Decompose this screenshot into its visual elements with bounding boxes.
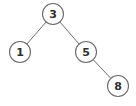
node-label: 1: [16, 46, 24, 59]
tree-node-1: 1: [10, 42, 31, 63]
binary-tree-diagram: 3 1 5 8: [0, 0, 136, 106]
tree-node-8: 8: [108, 76, 129, 97]
edge-3-to-1: [27, 22, 46, 44]
nodes: 3 1 5 8: [10, 4, 129, 97]
tree-node-3: 3: [43, 4, 64, 25]
node-label: 3: [49, 8, 57, 21]
edges: [27, 22, 111, 78]
node-label: 8: [114, 80, 122, 93]
edge-3-to-5: [60, 22, 79, 44]
edge-5-to-8: [93, 60, 111, 79]
node-label: 5: [82, 46, 90, 59]
tree-node-5: 5: [76, 42, 97, 63]
